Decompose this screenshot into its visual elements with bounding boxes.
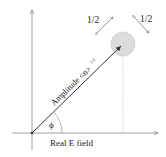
phase-label: ϕ [49,120,54,130]
amplitude-exponent: 1/2 [89,57,97,65]
uncertainty-arrow-left [97,17,113,33]
uncertainty-label-right: 1/2 [140,14,152,24]
phasor-diagram: 1/2 1/2 Amplitude <n> 1/2 ϕ Real E field [0,0,166,157]
x-axis-label: Real E field [50,138,93,148]
uncertainty-label-left: 1/2 [87,15,99,25]
origin-dot [31,132,34,135]
amplitude-label: Amplitude <n> [48,64,93,108]
amplitude-arrow [32,46,121,133]
phase-arc [54,112,63,133]
